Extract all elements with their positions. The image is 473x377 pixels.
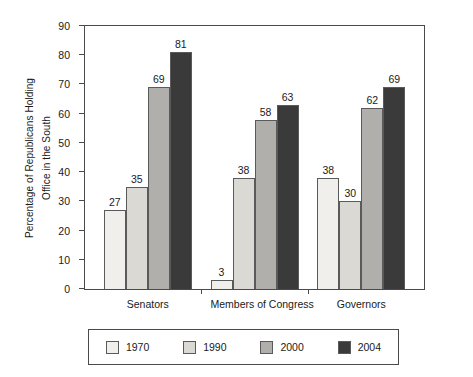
- bar-value-label: 35: [131, 173, 143, 185]
- bar-group: 27356981Senators: [104, 26, 192, 289]
- bar-group-bars: 3385863: [211, 26, 299, 289]
- bar-group: 38306269Governors: [317, 26, 405, 289]
- bar-value-label: 27: [109, 196, 121, 208]
- x-axis-category-label: Members of Congress: [211, 298, 299, 310]
- bar-value-label: 30: [344, 187, 356, 199]
- bar-group: 3385863Members of Congress: [211, 26, 299, 289]
- bar-value-label: 69: [388, 73, 400, 85]
- x-axis-category-label: Governors: [317, 298, 405, 310]
- bar[interactable]: 27: [104, 210, 126, 289]
- legend-label: 1970: [126, 341, 149, 353]
- y-axis-tick-label: 40: [58, 166, 70, 178]
- x-axis-category-label: Senators: [104, 298, 192, 310]
- legend-label: 2000: [280, 341, 303, 353]
- y-axis-tick-label: 50: [58, 137, 70, 149]
- bar[interactable]: 58: [255, 120, 277, 289]
- y-axis-tick-label: 0: [64, 283, 70, 295]
- bar-value-label: 69: [153, 73, 165, 85]
- bar-group-bars: 38306269: [317, 26, 405, 289]
- bar[interactable]: 69: [383, 87, 405, 289]
- bar[interactable]: 3: [211, 280, 233, 289]
- bar-value-label: 58: [260, 106, 272, 118]
- bar[interactable]: 81: [170, 52, 192, 289]
- x-axis-group-separator-tick: [308, 289, 309, 294]
- bar-value-label: 38: [238, 164, 250, 176]
- y-axis-tick-label: 70: [58, 78, 70, 90]
- y-axis-title-line-2: Office in the South: [41, 18, 52, 298]
- y-axis-tick-label: 90: [58, 20, 70, 32]
- bar[interactable]: 38: [317, 178, 339, 289]
- plot-area: 0102030405060708090 27356981Senators3385…: [84, 25, 425, 290]
- legend-label: 1990: [203, 341, 226, 353]
- y-axis-tick-label: 10: [58, 254, 70, 266]
- y-axis-tick-label: 30: [58, 195, 70, 207]
- bar-value-label: 62: [366, 94, 378, 106]
- legend-swatch-icon: [260, 341, 273, 354]
- bar-chart-figure: Percentage of Republicans Holding Office…: [0, 0, 473, 377]
- y-axis-tick-label: 80: [58, 49, 70, 61]
- legend-item[interactable]: 1990: [183, 341, 226, 354]
- chart-legend: 1970199020002004: [88, 329, 399, 365]
- bar[interactable]: 35: [126, 187, 148, 289]
- bar-value-label: 38: [322, 164, 334, 176]
- x-axis-group-separator-tick: [201, 289, 202, 294]
- bar-value-label: 3: [219, 266, 225, 278]
- bar-groups: 27356981Senators3385863Members of Congre…: [85, 26, 424, 289]
- y-axis-title-line-1: Percentage of Republicans Holding: [24, 18, 35, 298]
- legend-label: 2004: [358, 341, 381, 353]
- legend-swatch-icon: [183, 341, 196, 354]
- bar[interactable]: 30: [339, 201, 361, 289]
- bar[interactable]: 69: [148, 87, 170, 289]
- legend-swatch-icon: [338, 341, 351, 354]
- legend-item[interactable]: 2004: [338, 341, 381, 354]
- legend-swatch-icon: [106, 341, 119, 354]
- y-axis-tick-label: 60: [58, 108, 70, 120]
- bar-value-label: 63: [282, 91, 294, 103]
- bar[interactable]: 38: [233, 178, 255, 289]
- legend-item[interactable]: 1970: [106, 341, 149, 354]
- y-axis-tick-label: 20: [58, 225, 70, 237]
- bar-value-label: 81: [175, 38, 187, 50]
- legend-item[interactable]: 2000: [260, 341, 303, 354]
- bar[interactable]: 62: [361, 108, 383, 289]
- bar[interactable]: 63: [277, 105, 299, 289]
- bar-group-bars: 27356981: [104, 26, 192, 289]
